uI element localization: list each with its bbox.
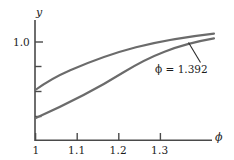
curve-upper [35, 34, 214, 90]
plot-canvas [0, 0, 234, 160]
annotation-leader-line [189, 43, 201, 63]
x-axis-label: ϕ [215, 132, 223, 143]
x-tick-label-1.2: 1.2 [110, 145, 127, 156]
y-axis-label: y [36, 7, 42, 18]
y-tick-label-1.0: 1.0 [13, 37, 30, 48]
x-axis-ticks [36, 133, 161, 140]
figure-container: y ϕ 1.0 1 1.1 1.2 1.3 ϕ = 1.392 [0, 0, 234, 160]
x-tick-label-1: 1 [33, 145, 40, 156]
x-tick-label-1.3: 1.3 [151, 145, 168, 156]
x-tick-label-1.1: 1.1 [68, 145, 85, 156]
y-axis-ticks [35, 42, 43, 117]
intersection-annotation: ϕ = 1.392 [155, 64, 208, 75]
